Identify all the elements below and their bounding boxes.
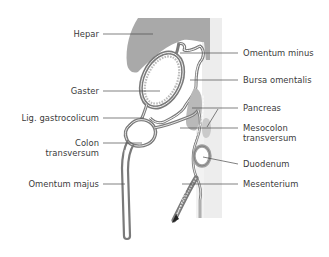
label-lig-gastrocolicum: Lig. gastrocolicum (22, 113, 99, 123)
label-mesocolon-line2: transversum (243, 133, 296, 143)
label-mesocolon-line1: Mesocolon (243, 123, 296, 133)
label-mesocolon-transversum: Mesocolon transversum (243, 123, 296, 143)
anatomical-diagram: Hepar Gaster Lig. gastrocolicum Colon tr… (0, 0, 329, 257)
label-colon-transversum: Colon transversum (46, 138, 99, 158)
label-colon-line1: Colon (46, 138, 99, 148)
label-mesenterium: Mesenterium (243, 179, 298, 189)
label-duodenum: Duodenum (243, 159, 290, 169)
label-bursa-omentalis: Bursa omentalis (243, 75, 312, 85)
label-omentum-minus: Omentum minus (243, 48, 314, 58)
label-pancreas: Pancreas (243, 103, 281, 113)
label-colon-line2: transversum (46, 148, 99, 158)
label-gaster: Gaster (71, 86, 99, 96)
label-hepar: Hepar (73, 29, 99, 39)
omentum-majus-shape (122, 140, 134, 239)
label-omentum-majus: Omentum majus (28, 179, 99, 189)
